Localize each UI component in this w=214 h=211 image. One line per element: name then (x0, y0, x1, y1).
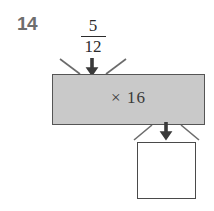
operation-label: × 16 (53, 88, 204, 108)
input-funnel-left-tick (59, 58, 81, 75)
operation-box: × 16 (52, 74, 205, 125)
answer-box[interactable] (137, 142, 196, 199)
output-down-arrow-icon (159, 122, 173, 141)
fraction-numerator: 5 (75, 17, 111, 35)
function-machine-diagram: 14 5 12 × 16 (0, 0, 214, 211)
output-funnel-left-tick (133, 124, 153, 141)
input-funnel-right-tick (105, 58, 127, 75)
output-funnel-right-tick (180, 124, 200, 141)
fraction-denominator: 12 (75, 38, 111, 56)
input-fraction: 5 12 (75, 17, 111, 56)
problem-number: 14 (17, 14, 37, 33)
